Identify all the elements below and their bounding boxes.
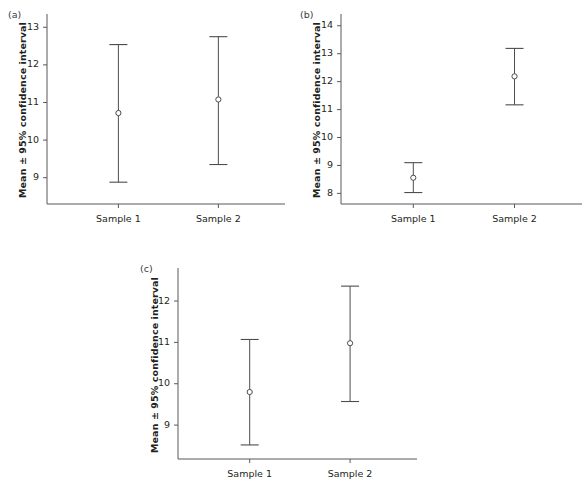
mean-marker [247,389,252,394]
plot-area-c [0,0,588,485]
mean-marker [347,341,352,346]
